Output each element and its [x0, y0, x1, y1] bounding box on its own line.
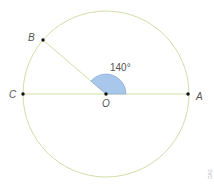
label-o: O — [102, 98, 110, 109]
point-o — [104, 92, 107, 95]
point-a — [186, 92, 189, 95]
angle-label: 140° — [110, 62, 131, 73]
label-c: C — [9, 89, 17, 100]
point-b — [41, 38, 44, 41]
point-c — [21, 92, 24, 95]
circle-diagram: B C A O 140° DAE — [0, 0, 214, 189]
angle-arc-aob — [91, 74, 126, 94]
label-a: A — [195, 91, 203, 102]
label-b: B — [28, 32, 35, 43]
watermark: DAE — [207, 168, 213, 179]
